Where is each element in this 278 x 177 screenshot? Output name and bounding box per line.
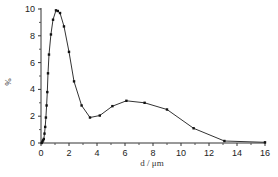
data-point [73,80,75,82]
data-point [47,72,49,74]
x-tick-label: 6 [122,148,127,158]
x-tick-label: 2 [66,148,71,158]
x-tick-label: 0 [38,148,43,158]
x-ticks: 0246810121416 [38,143,270,158]
data-point [44,126,46,128]
x-tick-label: 12 [204,148,214,158]
data-point [99,114,101,116]
data-point [46,91,48,93]
x-tick-label: 16 [260,148,270,158]
data-point [89,116,91,118]
y-tick-label: 2 [30,111,35,121]
data-point [68,51,70,53]
data-point [59,12,61,14]
data-point [192,127,194,129]
data-point [45,104,47,106]
data-point [45,116,47,118]
data-point [223,140,225,142]
x-tick-label: 8 [150,148,155,158]
data-point [166,108,168,110]
data-point [125,100,127,102]
data-point [80,104,82,106]
y-ticks: 0246810 [25,4,41,148]
y-tick-label: 4 [30,84,35,94]
data-point [264,141,266,143]
data-point [43,138,45,140]
y-axis-label: % [3,78,13,86]
data-point [50,33,52,35]
data-point [43,132,45,134]
data-point [63,25,65,27]
data-point [52,19,54,21]
x-tick-label: 4 [94,148,99,158]
data-point [48,53,50,55]
data-markers [41,9,267,144]
y-tick-label: 6 [30,58,35,68]
y-tick-label: 10 [25,4,35,14]
x-axis-label: d / μm [140,158,163,168]
data-point [57,10,59,12]
y-tick-label: 8 [30,31,35,41]
data-line [42,10,265,143]
data-point [111,105,113,107]
plot-area: 0246810 0246810121416 [25,4,270,158]
line-chart: 0246810 0246810121416 % d / μm [0,0,278,177]
y-tick-label: 0 [30,138,35,148]
x-tick-label: 14 [232,148,242,158]
x-tick-label: 10 [176,148,186,158]
data-point [143,102,145,104]
